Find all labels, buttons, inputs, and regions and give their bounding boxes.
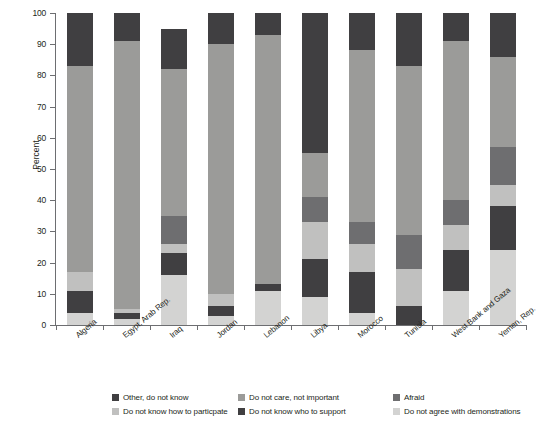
- bar-segment: [396, 235, 422, 269]
- bar-segment: [255, 13, 281, 35]
- plot-area: [56, 13, 526, 325]
- legend-item[interactable]: Other, do not know: [112, 393, 188, 402]
- x-tick-mark: [479, 325, 480, 330]
- y-tick-label: 0: [0, 320, 46, 330]
- x-tick-mark: [338, 325, 339, 330]
- x-tick-mark: [385, 325, 386, 330]
- bar-segment: [208, 306, 234, 315]
- bar-segment: [161, 69, 187, 216]
- bar-segment: [349, 272, 375, 313]
- x-tick-mark: [197, 325, 198, 330]
- y-tick-label: 30: [0, 226, 46, 236]
- legend-label: Afraid: [404, 393, 424, 402]
- bar-column: [396, 13, 422, 325]
- bar-segment: [490, 147, 516, 184]
- x-tick-label: Iraq: [168, 324, 184, 340]
- bar-segment: [208, 44, 234, 294]
- x-tick-mark: [244, 325, 245, 330]
- legend-item[interactable]: Do not agree with demonstrations: [393, 407, 520, 416]
- bar-segment: [302, 197, 328, 222]
- bar-segment: [302, 13, 328, 153]
- bar-segment: [443, 225, 469, 250]
- y-tick-label: 100: [0, 8, 46, 18]
- bar-segment: [490, 57, 516, 147]
- bar-segment: [161, 29, 187, 70]
- y-axis-label: Percent: [31, 115, 41, 195]
- bar-segment: [490, 13, 516, 57]
- y-tick-label: 10: [0, 289, 46, 299]
- legend-label: Do not agree with demonstrations: [404, 407, 520, 416]
- bar-segment: [67, 272, 93, 291]
- bar-segment: [208, 13, 234, 44]
- legend-row-2: Do not know how to particpateDo not know…: [112, 407, 532, 421]
- x-tick-mark: [526, 325, 527, 330]
- bar-segment: [302, 222, 328, 259]
- bar-column: [67, 13, 93, 325]
- bar-column: [349, 13, 375, 325]
- legend-row-1: Other, do not knowDo not care, not impor…: [112, 393, 532, 407]
- bar-segment: [396, 269, 422, 306]
- x-tick-mark: [150, 325, 151, 330]
- bar-segment: [490, 185, 516, 207]
- y-tick-label: 20: [0, 258, 46, 268]
- bar-segment: [67, 291, 93, 313]
- bar-segment: [255, 284, 281, 290]
- bar-segment: [208, 294, 234, 306]
- bar-segment: [349, 222, 375, 244]
- bar-segment: [302, 153, 328, 197]
- bar-segment: [114, 41, 140, 309]
- bar-column: [208, 13, 234, 325]
- legend-item[interactable]: Do not know how to particpate: [112, 407, 228, 416]
- x-tick-mark: [103, 325, 104, 330]
- y-tick-label: 60: [0, 133, 46, 143]
- legend-label: Do not care, not important: [249, 393, 339, 402]
- legend-swatch-icon: [112, 408, 119, 415]
- bar-segment: [114, 309, 140, 312]
- chart-legend: Other, do not knowDo not care, not impor…: [112, 393, 532, 421]
- legend-label: Do not know who to support: [249, 407, 346, 416]
- bar-segment: [443, 200, 469, 225]
- bar-segment: [349, 50, 375, 222]
- bar-segment: [114, 313, 140, 319]
- bar-column: [114, 13, 140, 325]
- legend-item[interactable]: Do not know who to support: [238, 407, 346, 416]
- y-tick-label: 90: [0, 39, 46, 49]
- chart-root: Percent 0102030405060708090100 AlgeriaEg…: [0, 0, 542, 436]
- bar-segment: [255, 35, 281, 285]
- x-tick-mark: [432, 325, 433, 330]
- bar-column: [302, 13, 328, 325]
- bar-column: [443, 13, 469, 325]
- bar-column: [490, 13, 516, 325]
- legend-swatch-icon: [393, 408, 400, 415]
- bar-segment: [161, 216, 187, 244]
- legend-swatch-icon: [393, 394, 400, 401]
- bar-segment: [396, 13, 422, 66]
- legend-item[interactable]: Afraid: [393, 393, 424, 402]
- bar-segment: [443, 41, 469, 200]
- legend-swatch-icon: [238, 394, 245, 401]
- bar-segment: [490, 206, 516, 250]
- legend-swatch-icon: [238, 408, 245, 415]
- bar-segment: [114, 13, 140, 41]
- bar-segment: [396, 66, 422, 234]
- bar-segment: [349, 244, 375, 272]
- y-tick-label: 50: [0, 164, 46, 174]
- bar-segment: [349, 13, 375, 50]
- bar-column: [161, 13, 187, 325]
- bar-segment: [302, 259, 328, 296]
- bar-segment: [443, 13, 469, 41]
- y-tick-label: 40: [0, 195, 46, 205]
- y-tick-label: 80: [0, 70, 46, 80]
- legend-item[interactable]: Do not care, not important: [238, 393, 339, 402]
- x-tick-mark: [291, 325, 292, 330]
- bar-segment: [161, 253, 187, 275]
- y-tick-label: 70: [0, 102, 46, 112]
- bar-segment: [67, 66, 93, 272]
- legend-label: Do not know how to particpate: [123, 407, 228, 416]
- bar-segment: [161, 244, 187, 253]
- bar-column: [255, 13, 281, 325]
- x-tick-mark: [56, 325, 57, 330]
- bar-segment: [67, 13, 93, 66]
- bar-segment: [443, 250, 469, 291]
- legend-label: Other, do not know: [123, 393, 188, 402]
